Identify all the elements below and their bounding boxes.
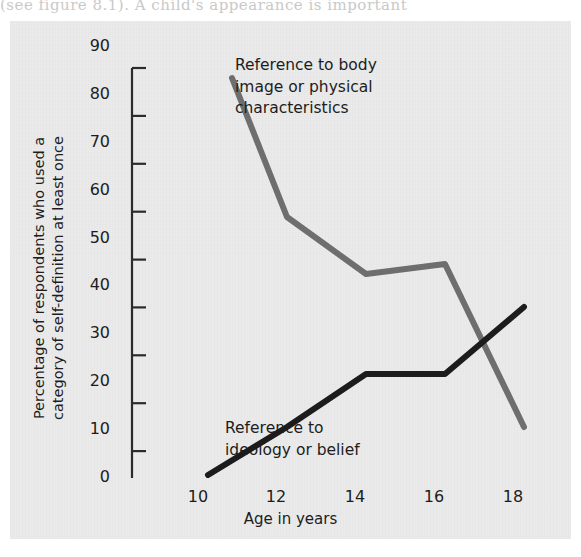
y-tick-label-30: 30 — [66, 323, 110, 342]
x-tick-label-10: 10 — [178, 487, 218, 506]
ideology-label-line-1: Reference to — [225, 418, 360, 440]
y-axis-ticks — [132, 68, 146, 478]
figure-page: (see figure 8.1). A child's appearance i… — [0, 0, 581, 557]
series-body-image-annotation: Reference to body image or physical char… — [235, 55, 377, 120]
y-axis-title-line-1: Percentage of respondents who used a — [30, 63, 49, 493]
page-bleed-text: (see figure 8.1). A child's appearance i… — [0, 0, 581, 18]
y-tick-label-80: 80 — [66, 84, 110, 103]
x-axis-title: Age in years — [10, 510, 571, 528]
y-axis-title: Percentage of respondents who used a cat… — [30, 63, 68, 493]
body-image-label-line-2: image or physical — [235, 77, 377, 99]
axis-lines — [132, 68, 561, 478]
y-tick-label-70: 70 — [66, 132, 110, 151]
y-tick-label-60: 60 — [66, 180, 110, 199]
series-ideology-annotation: Reference to ideology or belief — [225, 418, 360, 461]
body-image-label-line-3: characteristics — [235, 98, 377, 120]
y-tick-label-20: 20 — [66, 371, 110, 390]
y-tick-label-40: 40 — [66, 275, 110, 294]
y-tick-label-10: 10 — [66, 419, 110, 438]
x-tick-label-16: 16 — [414, 487, 454, 506]
x-tick-label-12: 12 — [256, 487, 296, 506]
plot-area: Reference to body image or physical char… — [122, 47, 561, 478]
x-tick-label-18: 18 — [493, 487, 533, 506]
body-image-label-line-1: Reference to body — [235, 55, 377, 77]
chart-figure: Percentage of respondents who used a cat… — [10, 21, 571, 539]
x-tick-label-14: 14 — [335, 487, 375, 506]
y-tick-label-0: 0 — [66, 467, 110, 486]
y-tick-label-50: 50 — [66, 228, 110, 247]
y-tick-label-90: 90 — [66, 36, 110, 55]
ideology-label-line-2: ideology or belief — [225, 440, 360, 462]
